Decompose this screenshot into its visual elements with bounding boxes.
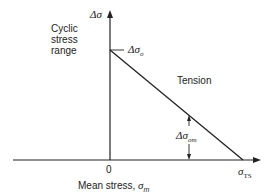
dimension-symbol: Δσ: [176, 129, 188, 141]
diagram-canvas: [0, 0, 273, 195]
intercept-y-sub: o: [140, 50, 144, 58]
x-axis-arrow-icon: [253, 157, 261, 163]
dimension-label: Δσom: [176, 130, 196, 146]
y-axis-label-line: range: [51, 45, 78, 56]
dimension-arrow-down-icon: [187, 154, 191, 160]
y-axis-label-line: stress: [51, 34, 78, 45]
intercept-y-label: Δσo: [128, 44, 143, 60]
intercept-y-symbol: Δσ: [128, 43, 140, 55]
y-axis-arrow-icon: [107, 10, 113, 18]
x-axis-label-sub: m: [143, 186, 149, 193]
x-axis-label-text: Mean stress,: [78, 180, 138, 191]
intercept-x-label: σTS: [238, 166, 252, 182]
region-label: Tension: [177, 75, 211, 86]
dimension-sub: om: [188, 136, 197, 144]
origin-label: 0: [106, 164, 112, 175]
intercept-x-sub: TS: [243, 172, 251, 180]
y-axis-label: Cyclic stress range: [51, 23, 78, 56]
x-axis-label: Mean stress, σm: [78, 180, 149, 195]
y-axis-symbol: Δσ: [90, 9, 102, 20]
y-axis-label-line: Cyclic: [51, 23, 78, 34]
